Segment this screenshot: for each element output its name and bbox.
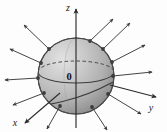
normal-base-dot: [88, 39, 92, 43]
normal-vector: [110, 45, 145, 64]
normal-vector: [10, 49, 43, 65]
normal-vector: [111, 72, 152, 78]
normal-vector: [101, 23, 130, 51]
sphere-vector-field-diagram: z y x 0: [0, 0, 167, 132]
normal-base-dot: [111, 74, 115, 78]
normal-vector: [106, 92, 141, 114]
normal-vector: [90, 105, 107, 130]
normal-vector: [24, 25, 51, 51]
normal-base-dot: [90, 105, 94, 109]
normal-base-dot: [42, 91, 46, 95]
normal-vector: [5, 76, 40, 80]
normal-base-dot: [47, 47, 51, 51]
y-axis-label: y: [148, 102, 154, 113]
normal-vector: [13, 91, 46, 105]
z-axis-label: z: [65, 2, 70, 13]
normal-base-dot: [110, 60, 114, 64]
y-axis: [110, 85, 156, 97]
figure-container: z y x 0: [0, 0, 167, 132]
normal-base-dot: [58, 104, 62, 108]
normal-base-dot: [36, 76, 40, 80]
normal-base-dot: [39, 61, 43, 65]
normal-vector: [88, 19, 113, 43]
normal-base-dot: [101, 47, 105, 51]
origin-label: 0: [66, 71, 71, 82]
x-axis-label: x: [12, 117, 18, 128]
normal-base-dot: [106, 92, 110, 96]
